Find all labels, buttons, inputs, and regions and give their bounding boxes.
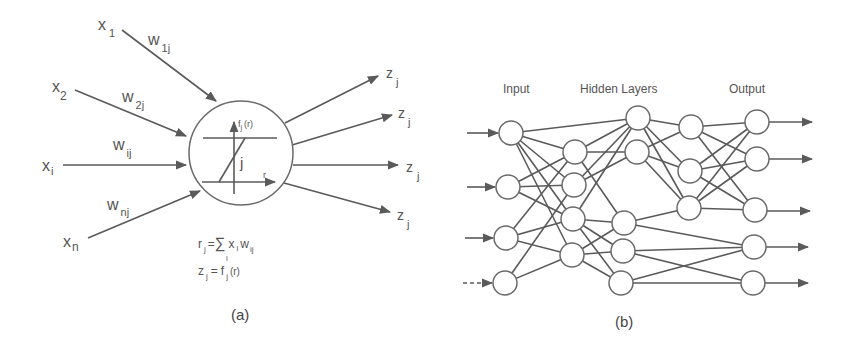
panel-b-caption: (b)	[615, 313, 633, 330]
neuron-label: j	[239, 154, 243, 171]
input-node	[494, 226, 518, 250]
hidden-node	[677, 196, 701, 220]
input-node	[499, 121, 523, 145]
input-label-x2: x2	[52, 78, 67, 103]
neuron-j	[189, 101, 293, 205]
hidden-node	[612, 211, 636, 235]
input-label-x1: x1	[98, 16, 115, 39]
weight-label-wnj: wnj	[106, 196, 129, 218]
output-node	[742, 235, 766, 259]
input-arrow-n	[88, 191, 200, 238]
formula-sum-index: i	[226, 254, 228, 263]
hidden-node	[678, 159, 702, 183]
hidden-node	[611, 239, 635, 263]
hidden-node	[563, 140, 587, 164]
hidden-node	[562, 173, 586, 197]
output-arrow-2	[292, 115, 392, 145]
formula-r-sum: rj=∑xiwij	[198, 234, 254, 254]
diagram-canvas: j fj(r) r x1 w1j x2 w2j xi wij xn wnj zj…	[0, 0, 854, 352]
panel-a-caption: (a)	[231, 306, 249, 323]
hidden-node	[560, 243, 584, 267]
output-label-z1: zj	[386, 65, 398, 88]
panel-a-single-neuron: j fj(r) r x1 w1j x2 w2j xi wij xn wnj zj…	[42, 16, 419, 323]
layer-label-input: Input	[503, 82, 530, 96]
output-node	[741, 271, 765, 295]
output-node	[745, 147, 769, 171]
layer-label-output: Output	[729, 82, 766, 96]
activation-axis-r-label: r	[263, 170, 266, 180]
output-node	[745, 110, 769, 134]
output-arrows	[765, 122, 812, 283]
output-arrow-1	[285, 76, 378, 123]
layer-label-hidden: Hidden Layers	[580, 82, 657, 96]
output-arrow-4	[284, 183, 390, 212]
formula-z-activation: zj=fj(r)	[198, 264, 240, 281]
input-label-xi: xi	[42, 157, 53, 177]
hidden-node	[626, 106, 650, 130]
weight-label-w2j: w2j	[121, 88, 144, 111]
input-label-xn: xn	[63, 233, 79, 254]
output-label-z4: zj	[397, 207, 409, 230]
output-label-z2: zj	[398, 105, 410, 128]
output-node	[743, 198, 767, 222]
hidden-layer-3-nodes	[677, 115, 703, 220]
hidden-layer-2-nodes	[609, 106, 650, 295]
input-arrow-1	[122, 30, 216, 101]
hidden-node	[609, 271, 633, 295]
hidden-node	[625, 140, 649, 164]
input-node	[496, 175, 520, 199]
input-node	[493, 271, 517, 295]
input-arrows	[463, 133, 498, 283]
hidden-node	[561, 207, 585, 231]
hidden-node	[679, 115, 703, 139]
output-label-z3: zj	[406, 159, 419, 182]
weight-label-wij: wij	[112, 136, 131, 159]
panel-b-network: Input Hidden Layers Output	[463, 82, 812, 330]
